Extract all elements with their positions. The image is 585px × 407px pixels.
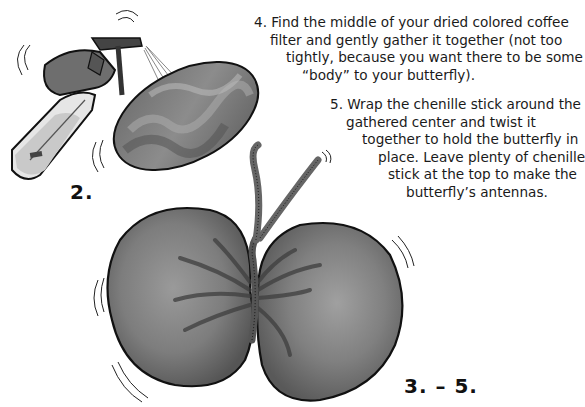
step-5-line-2: gathered center and twist it xyxy=(330,114,585,132)
step-4-line-2: filter and gently gather it together (no… xyxy=(254,32,583,50)
step-4-instructions: 4. Find the middle of your dried colored… xyxy=(254,14,583,84)
step-4-line-1: 4. Find the middle of your dried colored… xyxy=(254,14,583,32)
figure-label-spray: 2. xyxy=(70,180,94,204)
step-5-instructions: 5. Wrap the chenille stick around the ga… xyxy=(330,96,585,202)
figure-label-butterfly: 3. – 5. xyxy=(404,374,478,398)
step-4-line-4: “body” to your butterfly). xyxy=(254,67,583,85)
step-5-line-1: 5. Wrap the chenille stick around the xyxy=(330,96,585,114)
step-4-line-3: tightly, because you want there to be so… xyxy=(254,49,583,67)
step-5-line-6: butterfly’s antennas. xyxy=(330,184,585,202)
step-5-line-3: together to hold the butterfly in xyxy=(330,131,585,149)
step-5-line-5: stick at the top to make the xyxy=(330,166,585,184)
step-5-line-4: place. Leave plenty of chenille xyxy=(330,149,585,167)
